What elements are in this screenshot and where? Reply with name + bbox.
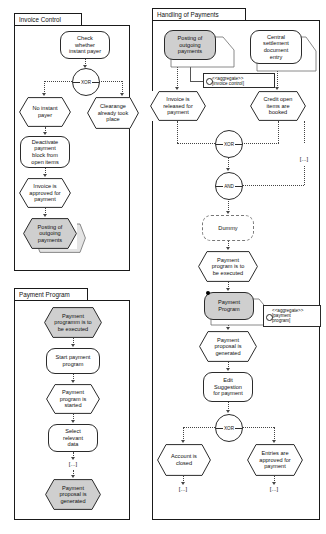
node-label: Invoice is released for payment [160,96,196,116]
note-line-2: [invoice control] [212,81,272,86]
aggregate-ring-icon [206,78,213,85]
node-label: Payment program is to be executed [209,257,248,277]
node-payment-program-to-be-executed-hp[interactable]: Payment program is to be executed [198,251,258,282]
node-label: No instant payer [29,105,60,118]
package-tab-handling-of-payments: Handling of Payments [152,8,246,21]
node-label: Dummy [215,225,240,232]
node-label: Posting of outgoing payments [175,35,206,55]
node-select-relevant-data[interactable]: Select relevant data [48,424,98,452]
node-label: Central settlement document entry [260,34,292,60]
connector-label: XOR [223,142,235,147]
node-label: Start payment program [53,354,94,367]
node-label: Deactivate payment block from open items [28,139,61,165]
node-entries-are-approved-for-payment[interactable]: Entries are approved for payment [247,444,303,476]
node-label: Payment program is started [57,389,89,409]
node-label: Posting of outgoing payments [35,224,66,244]
connector-label: AND [223,184,235,189]
node-label: Payment programm is to be executed [51,313,94,333]
note-line-2: [payment program] [272,313,318,324]
node-central-settlement-document-entry[interactable]: Central settlement document entry [250,30,302,64]
node-label: Edit Suggestion for payment [210,377,246,397]
node-label: Payment proposal is generated [211,337,244,357]
node-invoice-approved-for-payment[interactable]: Invoice is approved for payment [19,178,71,208]
node-label: Credit open items are booked [261,96,296,116]
node-account-is-closed[interactable]: Account is closed [157,444,211,476]
node-label: Payment proposal is generated [56,485,89,505]
node-payment-program-is-started[interactable]: Payment program is started [46,384,100,414]
ellipsis-marker-right-bottom: [...] [260,486,288,493]
node-payment-proposal-is-generated-hp[interactable]: Payment proposal is generated [199,331,257,362]
node-posting-of-outgoing-payments-hp[interactable]: Posting of outgoing payments [164,30,216,60]
node-check-whether-instant-payer[interactable]: Check whether instant payer [60,31,110,59]
connector-and-1[interactable]: AND [215,172,243,200]
node-label: Invoice is approved for payment [26,183,63,203]
ellipsis-marker-payment-program: [...] [59,461,87,468]
diagram-canvas: Invoice Control Check whether instant pa… [0,0,326,534]
package-title-handling-of-payments: Handling of Payments [157,11,219,18]
connector-label: XOR [223,426,235,431]
start-marker-dot [206,291,210,295]
note-aggregate-payment-program[interactable]: <<aggregate>> [payment program] [263,305,321,327]
node-start-payment-program[interactable]: Start payment program [46,348,100,374]
node-deactivate-payment-block[interactable]: Deactivate payment block from open items [20,136,70,168]
package-title-invoice-control: Invoice Control [19,16,61,23]
package-tab-payment-program: Payment Program [14,288,88,301]
node-label: Clearange already took place [95,103,131,123]
ellipsis-marker-left-bottom: [...] [169,486,197,493]
node-no-instant-payer[interactable]: No instant payer [19,97,71,127]
package-tab-invoice-control: Invoice Control [14,13,82,26]
connector-xor-2[interactable]: XOR [215,130,243,158]
node-clearance-already-took-place[interactable]: Clearange already took place [87,97,139,129]
ellipsis-marker-right: [...] [292,156,316,163]
connector-xor-3[interactable]: XOR [215,414,243,442]
package-title-payment-program: Payment Program [19,291,70,298]
aggregate-ring-icon [266,314,273,321]
note-aggregate-invoice-control[interactable]: <<aggregate>> [invoice control] [203,73,275,88]
node-label: Select relevant data [60,428,86,448]
node-invoice-is-released-for-payment[interactable]: Invoice is released for payment [150,91,206,121]
node-credit-open-items-are-booked[interactable]: Credit open items are booked [250,91,306,121]
node-edit-suggestion-for-payment[interactable]: Edit Suggestion for payment [203,372,253,402]
node-payment-proposal-is-generated[interactable]: Payment proposal is generated [45,479,101,510]
node-label: Payment Program [215,299,243,312]
node-payment-program-to-be-executed[interactable]: Payment programm is to be executed [44,307,102,338]
node-label: Account is closed [168,453,200,466]
node-payment-program-box[interactable]: Payment Program [204,292,254,320]
node-label: Entries are approved for payment [256,450,293,470]
node-label: Check whether instant payer [66,35,104,55]
connector-xor-1[interactable]: XOR [72,68,100,96]
node-posting-of-outgoing-payments[interactable]: Posting of outgoing payments [23,218,77,249]
connector-label: XOR [80,80,92,85]
node-dummy[interactable]: Dummy [202,215,254,241]
